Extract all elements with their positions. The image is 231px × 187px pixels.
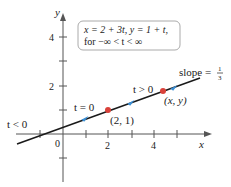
label-t-zero: t = 0 [74,101,95,113]
y-axis-label: y [54,6,60,18]
label-t-positive: t > 0 [133,83,154,95]
label-point-x-y: (x, y) [164,94,187,107]
slope-numerator: 1 [218,65,222,73]
direction-arrow-icon [81,116,90,122]
y-tick-label-2: 2 [49,81,54,92]
x-tick-label-4: 4 [151,140,156,151]
x-axis-arrow-icon [204,131,212,137]
origin-label: 0 [55,138,60,149]
slope-denominator: 3 [218,74,222,82]
label-point-2-1: (2, 1) [110,114,134,127]
y-axis-arrow-icon [60,13,66,21]
slope-label: slope = [179,66,211,78]
x-axis-label: x [198,138,204,150]
equation-line-2: for −∞ < t < ∞ [84,36,142,47]
parametric-line-diagram: y x 0 2 4 4 2 t < 0 t = 0 t > 0 (2, 1) (… [0,0,231,187]
point-2-1 [105,107,111,113]
x-tick-label-2: 2 [105,140,110,151]
y-axis [59,13,67,182]
equation-line-1: x = 2 + 3t, y = 1 + t, [83,24,168,35]
y-tick-label-4: 4 [49,32,54,43]
label-t-negative: t < 0 [7,118,28,130]
